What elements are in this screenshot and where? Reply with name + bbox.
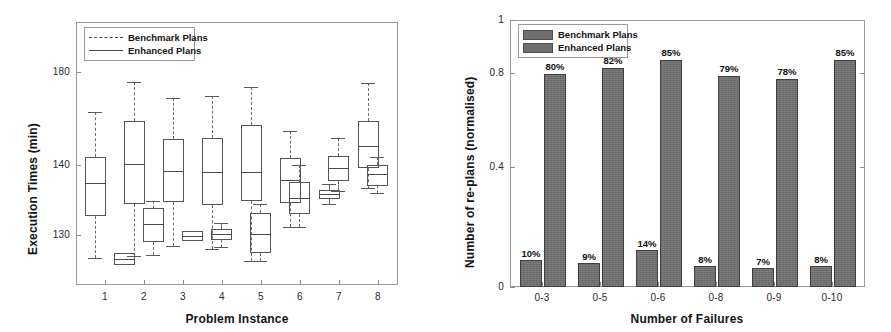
x-tick-label-3: 3 [173, 291, 193, 302]
whisker-benchmark-4 [212, 96, 213, 138]
x-axis-title-right: Number of Failures [601, 312, 773, 326]
y-tick-mark-0-4 [510, 167, 515, 168]
x-tick-mark-0-5 [600, 282, 601, 287]
x-tick-mark-6 [300, 280, 301, 285]
bar-enhanced-0-9 [776, 79, 798, 287]
median-enhanced-2 [143, 224, 164, 225]
legend-label-enhanced-plans: Enhanced Plans [128, 45, 201, 56]
x-tick-mark-1 [105, 280, 106, 285]
median-benchmark-1 [85, 183, 106, 184]
whisker-enhanced-2 [153, 201, 154, 208]
y-tick-mark-180 [76, 72, 81, 73]
whisker-low-benchmark-3 [173, 202, 174, 246]
whisker-benchmark-5 [251, 87, 252, 125]
chart-panel-replans: Number of re-plans (normalised) Number o… [446, 0, 891, 332]
bar-label-enhanced-0-6: 85% [650, 47, 692, 58]
median-enhanced-6 [289, 198, 310, 199]
median-enhanced-1 [114, 259, 135, 260]
whisker-cap-low-benchmark-4 [205, 249, 219, 250]
bar-label-enhanced-0-10: 85% [824, 47, 866, 58]
legend-replans: Benchmark Plans Enhanced Plans [518, 24, 628, 58]
box-benchmark-2 [124, 121, 145, 204]
whisker-enhanced-5 [260, 204, 261, 213]
median-benchmark-5 [241, 172, 262, 173]
whisker-cap-high-benchmark-5 [244, 87, 258, 88]
whisker-cap-high-benchmark-1 [88, 112, 102, 113]
whisker-cap-low-benchmark-3 [166, 246, 180, 247]
y-tick-mark-0 [510, 287, 515, 288]
y-tick-label-180: 180 [36, 66, 70, 77]
whisker-benchmark-1 [95, 112, 96, 157]
bar-benchmark-0-9 [752, 268, 774, 287]
whisker-cap-high-benchmark-8 [361, 83, 375, 84]
whisker-cap-high-benchmark-7 [322, 184, 336, 185]
legend-label-enhanced-plans-bar: Enhanced Plans [558, 42, 631, 53]
x-tick-label-0-10: 0-10 [812, 292, 852, 303]
x-tick-mark-0-10 [832, 282, 833, 287]
x-tick-label-8: 8 [368, 291, 388, 302]
x-tick-mark-3 [183, 280, 184, 285]
whisker-benchmark-3 [173, 98, 174, 139]
whisker-cap-high-enhanced-5 [253, 204, 267, 205]
x-tick-label-0-8: 0-8 [696, 292, 736, 303]
legend-item-enhanced-plans-bar: Enhanced Plans [523, 41, 621, 54]
bar-enhanced-0-6 [660, 60, 682, 287]
whisker-enhanced-6 [299, 165, 300, 182]
box-benchmark-8 [358, 121, 379, 168]
whisker-low-enhanced-6 [299, 214, 300, 227]
bar-label-enhanced-0-9: 78% [766, 66, 808, 77]
median-benchmark-3 [163, 171, 184, 172]
x-tick-mark-0-9 [774, 282, 775, 287]
legend-item-enhanced-plans: Enhanced Plans [89, 44, 188, 57]
bar-benchmark-0-3 [520, 260, 542, 287]
x-tick-mark-0-3 [542, 282, 543, 287]
whisker-cap-high-benchmark-4 [205, 96, 219, 97]
y-tick-mark-right-0-8 [860, 73, 865, 74]
box-enhanced-8 [367, 165, 388, 186]
median-enhanced-8 [367, 174, 388, 175]
bar-label-enhanced-0-3: 80% [534, 61, 576, 72]
x-tick-mark-5 [261, 280, 262, 285]
whisker-cap-low-enhanced-7 [331, 191, 345, 192]
whisker-cap-high-enhanced-6 [292, 165, 306, 166]
whisker-cap-high-enhanced-4 [214, 223, 228, 224]
x-tick-label-0-3: 0-3 [522, 292, 562, 303]
x-tick-label-6: 6 [290, 291, 310, 302]
x-tick-mark-7 [339, 280, 340, 285]
box-benchmark-1 [85, 157, 106, 216]
x-tick-mark-0-8 [716, 282, 717, 287]
legend-item-benchmark-plans: Benchmark Plans [89, 31, 188, 44]
x-tick-label-1: 1 [95, 291, 115, 302]
bar-benchmark-0-10 [810, 266, 832, 287]
whisker-low-enhanced-7 [338, 181, 339, 191]
bar-enhanced-0-10 [834, 60, 856, 287]
legend-label-benchmark-plans: Benchmark Plans [128, 32, 208, 43]
whisker-low-benchmark-2 [134, 204, 135, 256]
whisker-low-benchmark-1 [95, 216, 96, 258]
median-benchmark-8 [358, 146, 379, 147]
whisker-cap-high-enhanced-7 [331, 138, 345, 139]
legend-label-benchmark-plans-bar: Benchmark Plans [558, 29, 638, 40]
whisker-low-enhanced-8 [377, 186, 378, 193]
bar-benchmark-0-6 [636, 250, 658, 287]
solid-line-icon [89, 46, 123, 56]
whisker-cap-low-enhanced-6 [292, 227, 306, 228]
median-benchmark-2 [124, 164, 145, 165]
x-tick-label-2: 2 [134, 291, 154, 302]
x-tick-label-0-6: 0-6 [638, 292, 678, 303]
x-tick-label-7: 7 [329, 291, 349, 302]
y-tick-mark-1 [510, 20, 515, 21]
x-tick-label-0-9: 0-9 [754, 292, 794, 303]
whisker-low-enhanced-2 [153, 242, 154, 255]
bar-enhanced-0-3 [544, 74, 566, 287]
y-tick-label-130: 130 [36, 229, 70, 240]
whisker-cap-high-benchmark-6 [283, 131, 297, 132]
whisker-cap-high-enhanced-8 [370, 157, 384, 158]
y-axis-title-right: Number of re-plans (normalised) [463, 76, 477, 268]
median-benchmark-7 [319, 194, 340, 195]
bar-label-enhanced-0-8: 79% [708, 63, 750, 74]
whisker-benchmark-2 [134, 82, 135, 121]
swatch-benchmark-icon [523, 30, 553, 40]
whisker-low-benchmark-4 [212, 205, 213, 249]
whisker-cap-high-enhanced-2 [146, 201, 160, 202]
